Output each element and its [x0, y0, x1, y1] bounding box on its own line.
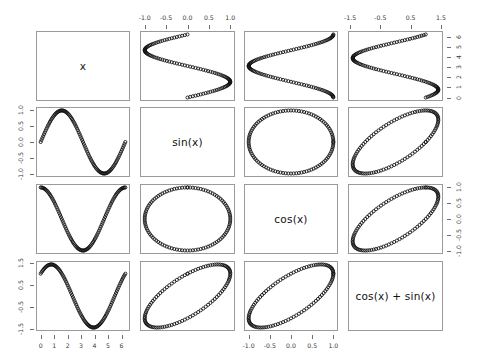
axis-tick-label: 2	[66, 343, 70, 349]
axis-tick-mark	[447, 203, 451, 204]
axis-tick-mark	[447, 87, 451, 88]
scatter-points	[140, 31, 235, 101]
axis-tick-mark	[447, 67, 451, 68]
axis-tick-mark	[291, 335, 292, 339]
diagonal-panel-1: x	[36, 31, 130, 101]
axis-tick-mark	[333, 335, 334, 339]
axis-tick-label: 1.0	[225, 15, 235, 21]
axis-tick-label: 1.0	[328, 343, 338, 349]
axis-tick-mark	[145, 25, 146, 29]
scatter-panel-r2c4	[348, 107, 443, 177]
scatter-points	[244, 31, 338, 101]
axis-tick-label: 3	[456, 65, 462, 69]
axis-tick-label: 1.0	[456, 183, 462, 193]
axis-tick-label: -0.5	[18, 152, 24, 164]
axis-tick-mark	[30, 110, 34, 111]
axis-tick-label: -1.0	[139, 15, 151, 21]
axis-tick-mark	[447, 57, 451, 58]
axis-tick-mark	[54, 335, 55, 339]
variable-label: x	[36, 31, 130, 101]
scatter-panel-r3c4	[348, 184, 443, 254]
axis-tick-label: -1.5	[344, 15, 356, 21]
axis-tick-mark	[447, 235, 451, 236]
axis-tick-label: -1.0	[243, 343, 255, 349]
axis-tick-mark	[41, 335, 42, 339]
scatter-panel-r1c2	[140, 31, 235, 101]
diagonal-panel-2: sin(x)	[140, 107, 235, 177]
axis-tick-mark	[30, 285, 34, 286]
axis-tick-label: 0.5	[204, 15, 214, 21]
axis-tick-label: 3	[79, 343, 83, 349]
axis-tick-mark	[312, 335, 313, 339]
scatter-points	[36, 184, 130, 254]
axis-tick-mark	[30, 174, 34, 175]
scatter-plot-matrix: xsin(x)cos(x)cos(x) + sin(x)-1.0-0.50.00…	[0, 0, 483, 359]
scatter-panel-r3c1	[36, 184, 130, 254]
scatter-points	[36, 107, 130, 177]
variable-label: sin(x)	[140, 107, 235, 177]
scatter-points	[348, 184, 443, 254]
axis-tick-label: 4	[93, 343, 97, 349]
scatter-panel-r1c3	[244, 31, 338, 101]
scatter-points	[244, 107, 338, 177]
axis-tick-label: 5	[456, 45, 462, 49]
axis-tick-label: 0.0	[456, 214, 462, 224]
axis-tick-mark	[447, 77, 451, 78]
axis-tick-label: 4	[456, 55, 462, 59]
axis-tick-label: 1.0	[18, 106, 24, 116]
axis-tick-label: -0.5	[374, 15, 386, 21]
axis-tick-mark	[411, 25, 412, 29]
axis-tick-mark	[447, 251, 451, 252]
axis-tick-label: 6	[456, 35, 462, 39]
scatter-points	[140, 261, 235, 331]
axis-tick-mark	[447, 219, 451, 220]
axis-tick-mark	[30, 307, 34, 308]
axis-tick-mark	[95, 335, 96, 339]
axis-tick-mark	[380, 25, 381, 29]
variable-label: cos(x)	[244, 184, 338, 254]
axis-tick-label: -0.5	[264, 343, 276, 349]
axis-tick-mark	[30, 126, 34, 127]
axis-tick-mark	[447, 47, 451, 48]
scatter-points	[36, 261, 130, 331]
axis-tick-label: -0.5	[160, 15, 172, 21]
axis-tick-label: 0	[456, 96, 462, 100]
axis-tick-mark	[166, 25, 167, 29]
scatter-points	[140, 184, 235, 254]
axis-tick-label: 0	[39, 343, 43, 349]
scatter-panel-r2c1	[36, 107, 130, 177]
axis-tick-mark	[249, 335, 250, 339]
axis-tick-label: -1.0	[456, 244, 462, 256]
scatter-panel-r3c2	[140, 184, 235, 254]
axis-tick-label: 6	[120, 343, 124, 349]
axis-tick-mark	[122, 335, 123, 339]
axis-tick-label: 2	[456, 75, 462, 79]
axis-tick-mark	[188, 25, 189, 29]
axis-tick-label: 1.5	[18, 258, 24, 268]
axis-tick-label: -0.5	[456, 229, 462, 241]
axis-tick-mark	[68, 335, 69, 339]
axis-tick-mark	[30, 263, 34, 264]
scatter-panel-r4c3	[244, 261, 338, 331]
variable-label: cos(x) + sin(x)	[348, 261, 443, 331]
axis-tick-mark	[81, 335, 82, 339]
axis-tick-label: -0.5	[18, 301, 24, 313]
axis-tick-mark	[441, 25, 442, 29]
axis-tick-mark	[447, 187, 451, 188]
axis-tick-label: 0.5	[456, 198, 462, 208]
axis-tick-mark	[30, 329, 34, 330]
axis-tick-label: 0.0	[286, 343, 296, 349]
axis-tick-label: 0.0	[18, 137, 24, 147]
axis-tick-label: 0.5	[18, 280, 24, 290]
scatter-panel-r4c2	[140, 261, 235, 331]
axis-tick-label: -1.5	[18, 323, 24, 335]
scatter-points	[348, 31, 443, 101]
axis-tick-label: 0.5	[307, 343, 317, 349]
scatter-points	[348, 107, 443, 177]
scatter-panel-r1c4	[348, 31, 443, 101]
axis-tick-label: 1.5	[436, 15, 446, 21]
axis-tick-mark	[209, 25, 210, 29]
axis-tick-mark	[108, 335, 109, 339]
axis-tick-mark	[447, 98, 451, 99]
axis-tick-mark	[230, 25, 231, 29]
